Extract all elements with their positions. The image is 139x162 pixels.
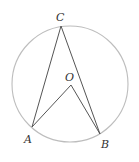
circle (12, 26, 128, 142)
label-o: O (65, 71, 74, 84)
label-b: B (100, 138, 109, 151)
label-c: C (56, 11, 65, 24)
segment-ob (71, 85, 100, 134)
label-a: A (23, 133, 32, 146)
circle-angle-diagram: C O A B (0, 0, 139, 162)
